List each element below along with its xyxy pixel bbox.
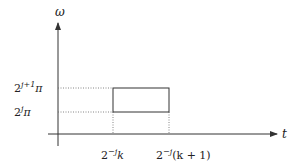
y-tick-upper: 2j+1π	[14, 80, 43, 95]
x-axis-label: t	[282, 127, 287, 141]
x-tick-right: 2−j(k + 1)	[156, 147, 211, 162]
y-tick-lower: 2jπ	[14, 104, 31, 119]
x-tick-left: 2−jk	[101, 147, 124, 162]
y-axis-label: ω	[55, 5, 65, 19]
time-frequency-diagram: ω t 2j+1π 2jπ 2−jk 2−j(k + 1)	[0, 0, 299, 168]
tile-box	[113, 88, 169, 112]
